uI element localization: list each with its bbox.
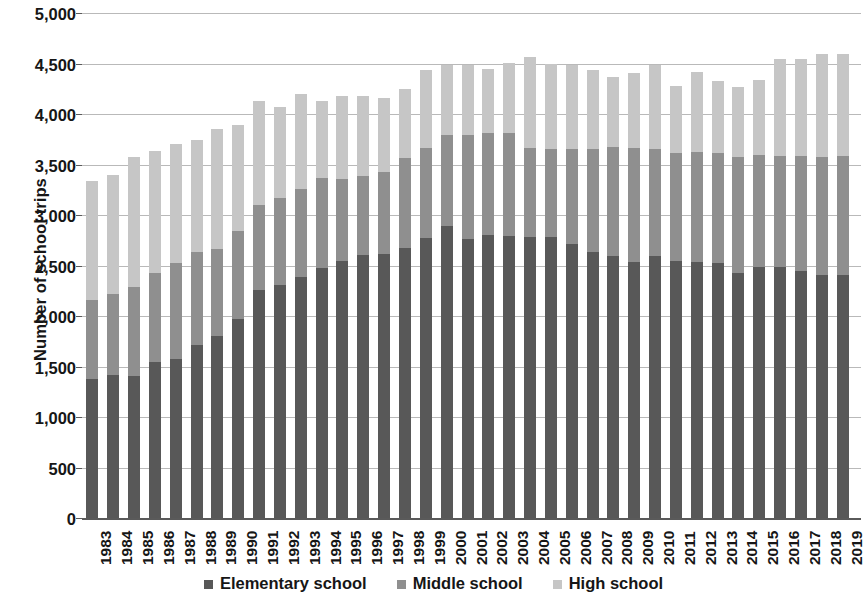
bar-segment[interactable] bbox=[587, 70, 599, 150]
bar-segment[interactable] bbox=[86, 379, 98, 519]
bar-segment[interactable] bbox=[253, 101, 265, 205]
bar-segment[interactable] bbox=[441, 65, 453, 136]
legend-item[interactable]: Elementary school bbox=[204, 574, 367, 593]
bar-segment[interactable] bbox=[462, 135, 474, 239]
bar-segment[interactable] bbox=[191, 140, 203, 252]
bar-segment[interactable] bbox=[399, 89, 411, 159]
bar-segment[interactable] bbox=[732, 87, 744, 158]
bar-segment[interactable] bbox=[524, 148, 536, 237]
bar-segment[interactable] bbox=[628, 148, 640, 262]
bar-segment[interactable] bbox=[274, 285, 286, 519]
bar-segment[interactable] bbox=[378, 172, 390, 255]
bar-segment[interactable] bbox=[587, 149, 599, 252]
bar-segment[interactable] bbox=[107, 175, 119, 295]
bar-group[interactable] bbox=[691, 72, 703, 519]
bar-group[interactable] bbox=[732, 87, 744, 519]
bar-segment[interactable] bbox=[274, 107, 286, 198]
bar-segment[interactable] bbox=[149, 362, 161, 519]
bar-segment[interactable] bbox=[482, 69, 494, 134]
bar-group[interactable] bbox=[462, 65, 474, 520]
bar-group[interactable] bbox=[670, 86, 682, 519]
bar-segment[interactable] bbox=[170, 359, 182, 519]
bar-segment[interactable] bbox=[670, 261, 682, 519]
bar-segment[interactable] bbox=[774, 59, 786, 156]
bar-segment[interactable] bbox=[336, 261, 348, 519]
bar-group[interactable] bbox=[545, 64, 557, 520]
bar-segment[interactable] bbox=[482, 133, 494, 235]
bar-segment[interactable] bbox=[503, 133, 515, 236]
bar-segment[interactable] bbox=[649, 256, 661, 519]
bar-segment[interactable] bbox=[170, 144, 182, 263]
bar-segment[interactable] bbox=[441, 226, 453, 519]
bar-segment[interactable] bbox=[545, 237, 557, 519]
bar-group[interactable] bbox=[211, 129, 223, 519]
bar-group[interactable] bbox=[378, 98, 390, 519]
bar-segment[interactable] bbox=[170, 263, 182, 359]
bar-segment[interactable] bbox=[837, 54, 849, 156]
bar-segment[interactable] bbox=[545, 64, 557, 150]
bar-segment[interactable] bbox=[712, 81, 724, 154]
bar-segment[interactable] bbox=[545, 149, 557, 237]
bar-segment[interactable] bbox=[253, 205, 265, 290]
bar-segment[interactable] bbox=[149, 273, 161, 363]
bar-segment[interactable] bbox=[128, 157, 140, 286]
bar-group[interactable] bbox=[420, 70, 432, 519]
bar-segment[interactable] bbox=[816, 157, 828, 274]
bar-segment[interactable] bbox=[691, 152, 703, 262]
bar-segment[interactable] bbox=[732, 157, 744, 272]
bar-segment[interactable] bbox=[128, 287, 140, 376]
bar-segment[interactable] bbox=[107, 375, 119, 519]
bar-segment[interactable] bbox=[211, 249, 223, 336]
bar-segment[interactable] bbox=[399, 158, 411, 248]
bar-segment[interactable] bbox=[774, 156, 786, 266]
bar-segment[interactable] bbox=[191, 345, 203, 519]
bar-segment[interactable] bbox=[816, 275, 828, 519]
bar-segment[interactable] bbox=[295, 277, 307, 519]
bar-group[interactable] bbox=[816, 54, 828, 519]
bar-segment[interactable] bbox=[316, 101, 328, 178]
bar-group[interactable] bbox=[86, 181, 98, 519]
bar-group[interactable] bbox=[399, 89, 411, 519]
bar-segment[interactable] bbox=[462, 65, 474, 136]
bar-segment[interactable] bbox=[86, 181, 98, 301]
bar-segment[interactable] bbox=[566, 65, 578, 150]
bar-segment[interactable] bbox=[795, 271, 807, 519]
bar-segment[interactable] bbox=[399, 248, 411, 519]
bar-group[interactable] bbox=[274, 107, 286, 519]
bar-segment[interactable] bbox=[274, 198, 286, 285]
bar-segment[interactable] bbox=[211, 336, 223, 519]
bar-group[interactable] bbox=[336, 96, 348, 519]
bar-segment[interactable] bbox=[420, 70, 432, 149]
bar-segment[interactable] bbox=[441, 135, 453, 226]
bar-segment[interactable] bbox=[795, 59, 807, 156]
bar-group[interactable] bbox=[128, 157, 140, 519]
bar-segment[interactable] bbox=[462, 239, 474, 519]
bar-segment[interactable] bbox=[691, 262, 703, 519]
bar-group[interactable] bbox=[316, 101, 328, 519]
bar-group[interactable] bbox=[607, 77, 619, 519]
bar-segment[interactable] bbox=[482, 235, 494, 519]
bar-segment[interactable] bbox=[211, 129, 223, 249]
bar-segment[interactable] bbox=[232, 319, 244, 519]
bar-group[interactable] bbox=[795, 59, 807, 519]
bar-segment[interactable] bbox=[420, 238, 432, 519]
bar-group[interactable] bbox=[253, 101, 265, 519]
bar-segment[interactable] bbox=[670, 153, 682, 261]
bar-segment[interactable] bbox=[837, 156, 849, 274]
bar-segment[interactable] bbox=[816, 54, 828, 157]
bar-segment[interactable] bbox=[712, 153, 724, 263]
bar-segment[interactable] bbox=[357, 96, 369, 176]
bar-segment[interactable] bbox=[712, 263, 724, 519]
bar-segment[interactable] bbox=[357, 176, 369, 256]
bar-segment[interactable] bbox=[357, 255, 369, 519]
bar-segment[interactable] bbox=[295, 189, 307, 277]
bar-segment[interactable] bbox=[691, 72, 703, 153]
bar-segment[interactable] bbox=[753, 267, 765, 520]
bar-segment[interactable] bbox=[378, 98, 390, 172]
bar-segment[interactable] bbox=[107, 294, 119, 375]
bar-segment[interactable] bbox=[253, 290, 265, 519]
bar-segment[interactable] bbox=[837, 275, 849, 519]
bar-segment[interactable] bbox=[336, 179, 348, 262]
bar-group[interactable] bbox=[232, 125, 244, 519]
bar-group[interactable] bbox=[712, 81, 724, 519]
